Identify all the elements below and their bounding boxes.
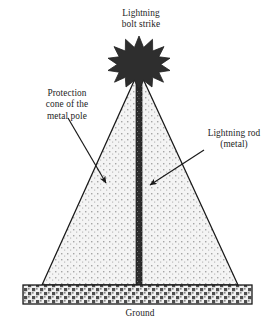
- lightning-rod-label: Lightning rod (metal): [193, 128, 275, 151]
- diagram-canvas: [0, 0, 275, 333]
- lightning-rod-shape: [136, 62, 142, 285]
- protection-cone-leader: [68, 118, 106, 183]
- lightning-bolt-strike-label: Lightning bolt strike: [95, 8, 187, 31]
- lightning-bolt-icon: [108, 36, 170, 90]
- ground-label: Ground: [100, 308, 180, 319]
- ground-bar: [23, 285, 252, 304]
- protection-cone-label: Protection cone of the metal pole: [22, 88, 112, 122]
- lightning-protection-diagram: Lightning bolt strike Protection cone of…: [0, 0, 275, 333]
